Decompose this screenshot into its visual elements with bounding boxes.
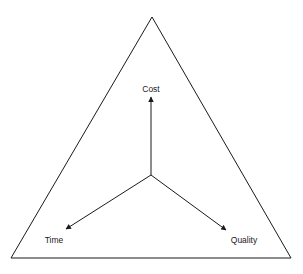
time-label: Time: [45, 235, 64, 245]
quality-label: Quality: [231, 235, 258, 245]
time-arrow: [66, 175, 151, 229]
quality-arrow: [151, 175, 226, 230]
cost-label: Cost: [142, 84, 160, 94]
project-triangle-diagram: Cost Time Quality: [0, 0, 303, 274]
